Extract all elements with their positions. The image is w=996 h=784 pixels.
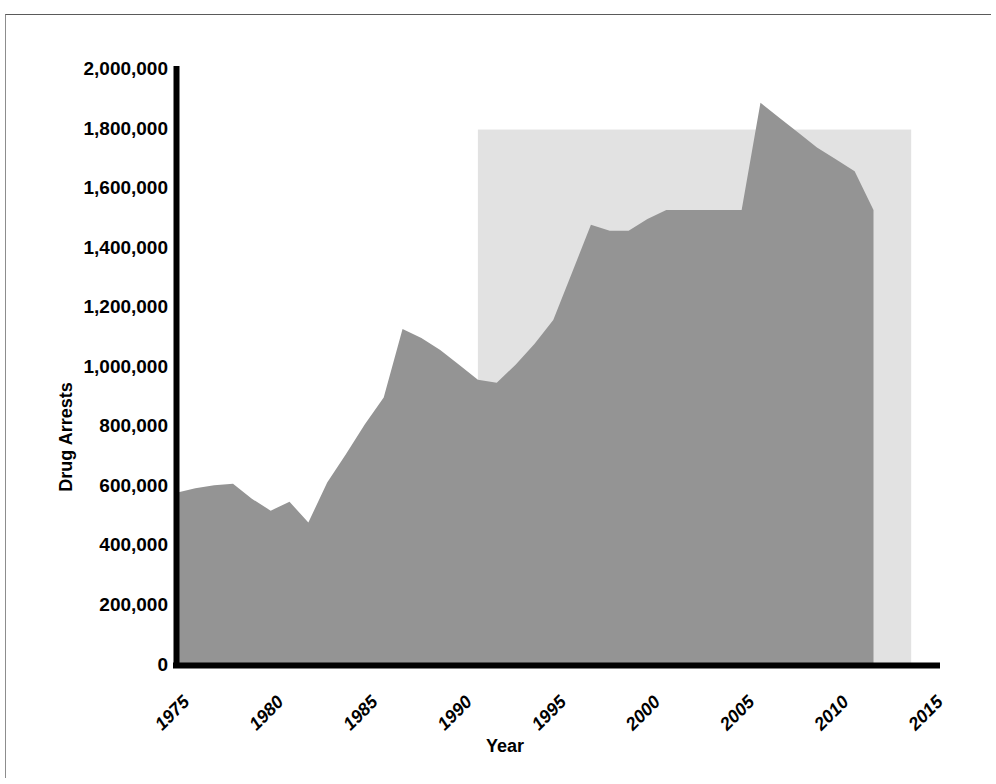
y-tick-label: 600,000 [99, 475, 168, 496]
y-tick-label: 1,000,000 [83, 356, 168, 377]
chart-page: 0200,000400,000600,000800,0001,000,0001,… [0, 0, 996, 784]
y-tick-label: 400,000 [99, 534, 168, 555]
y-tick-label: 2,000,000 [83, 58, 168, 79]
y-tick-label: 0 [157, 654, 168, 675]
y-axis-tick-labels: 0200,000400,000600,000800,0001,000,0001,… [83, 58, 168, 675]
y-tick-label: 1,200,000 [83, 296, 168, 317]
x-tick-label: 1975 [151, 691, 194, 734]
x-tick-label: 1980 [245, 692, 287, 734]
x-tick-label: 1990 [433, 692, 475, 734]
y-tick-label: 800,000 [99, 415, 168, 436]
x-tick-label: 2010 [809, 692, 852, 735]
x-tick-label: 2000 [621, 692, 664, 735]
y-tick-label: 200,000 [99, 594, 168, 615]
x-tick-label: 2005 [715, 691, 759, 735]
x-tick-label: 2015 [904, 691, 948, 735]
x-axis-title: Year [486, 736, 524, 756]
y-tick-label: 1,400,000 [83, 237, 168, 258]
y-tick-label: 1,600,000 [83, 177, 168, 198]
drug-arrests-area-chart: 0200,000400,000600,000800,0001,000,0001,… [0, 0, 996, 784]
x-tick-label: 1995 [528, 691, 571, 734]
x-tick-label: 1985 [339, 691, 382, 734]
y-axis-title: Drug Arrests [56, 382, 76, 491]
x-axis-tick-labels: 197519801985199019952000200520102015 [151, 691, 948, 735]
y-tick-label: 1,800,000 [83, 118, 168, 139]
